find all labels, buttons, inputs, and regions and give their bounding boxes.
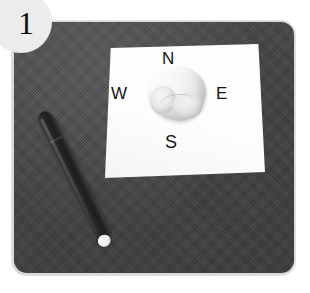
compass-label-south: S [165,133,177,151]
step-number-label: 1 [18,7,34,39]
compass-label-west: W [111,85,127,102]
compass-sheet: N W E S [100,44,265,178]
clay-blob [148,66,206,121]
compass-label-east: E [216,85,227,102]
compass-label-north: N [162,50,174,67]
figure-scene: N W E S 1 [0,0,310,293]
